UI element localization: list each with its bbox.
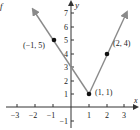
- svg-text:7: 7: [64, 9, 68, 18]
- corner-fragment: f: [0, 1, 4, 11]
- point-neg1-5: [52, 38, 57, 43]
- svg-text:2: 2: [105, 111, 109, 120]
- x-tick-labels: −3 −2 −1 1 2 3: [11, 111, 126, 120]
- point-label-1-1: (1, 1): [95, 88, 113, 97]
- y-tick-labels: −1 1 2 3 4 5 6 7: [59, 9, 68, 126]
- svg-text:1: 1: [64, 90, 68, 99]
- svg-text:2: 2: [64, 77, 68, 86]
- point-label-neg1-5: (−1, 5): [23, 41, 45, 50]
- point-1-1: [87, 92, 92, 97]
- svg-text:6: 6: [64, 23, 68, 32]
- svg-text:3: 3: [122, 111, 126, 120]
- graph: f x y −3 −2 −1 1 2 3 −1 1 2 3 4 5: [0, 0, 140, 130]
- svg-text:−2: −2: [29, 111, 38, 120]
- svg-text:−3: −3: [11, 111, 20, 120]
- point-2-4: [105, 52, 110, 57]
- svg-text:3: 3: [64, 63, 68, 72]
- x-axis-label: x: [133, 96, 138, 105]
- svg-text:1: 1: [87, 111, 91, 120]
- graph-left-branch: [34, 11, 89, 94]
- y-axis-label: y: [74, 0, 79, 10]
- svg-text:−1: −1: [59, 117, 68, 126]
- svg-text:−1: −1: [47, 111, 56, 120]
- point-label-2-4: (2, 4): [113, 39, 131, 48]
- svg-text:5: 5: [64, 36, 68, 45]
